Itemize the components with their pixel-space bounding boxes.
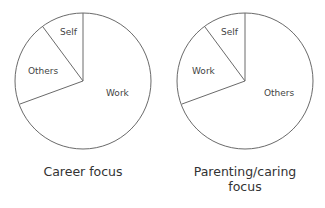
slice-label-others: Others bbox=[28, 66, 59, 76]
caption-parenting-focus: Parenting/caring focus bbox=[185, 164, 305, 194]
slice-label-work: Work bbox=[192, 66, 216, 76]
slice-label-self: Self bbox=[60, 27, 78, 37]
pie-career-focus: Self Others Work bbox=[15, 13, 151, 149]
caption-career-focus: Career focus bbox=[23, 164, 143, 179]
slice-label-work: Work bbox=[106, 88, 130, 98]
slice-label-others: Others bbox=[264, 88, 295, 98]
pie-parenting-focus: Self Work Others bbox=[177, 13, 313, 149]
caption-line: focus bbox=[185, 179, 305, 194]
caption-line: Parenting/caring bbox=[185, 164, 305, 179]
slice-label-self: Self bbox=[221, 27, 239, 37]
